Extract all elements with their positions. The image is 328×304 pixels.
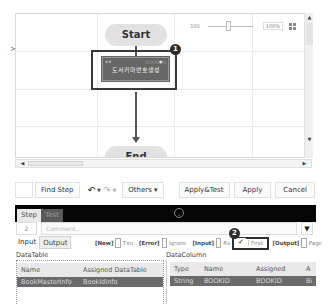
undo-dropdown-icon[interactable]: ▼: [97, 187, 101, 193]
rs-checkbox[interactable]: [216, 238, 221, 248]
tab-test[interactable]: Test: [41, 209, 63, 222]
cell-type: String: [170, 276, 200, 286]
apply-button[interactable]: Apply: [234, 182, 272, 198]
step-options: [New] Txn [Error] Ignore [Input] Rs ✓ Fi…: [95, 237, 328, 249]
txn-label: Txn: [123, 240, 133, 246]
column-header-name[interactable]: Name: [17, 263, 79, 277]
find-step-button[interactable]: Find Step: [35, 182, 80, 198]
tab-step[interactable]: Step: [17, 209, 41, 222]
tab-input[interactable]: Input: [15, 236, 39, 249]
datacolumn-header: Type Name Assigned A: [170, 262, 316, 276]
comment-dropdown-icon[interactable]: ▼: [301, 222, 313, 235]
txn-checkbox[interactable]: [115, 238, 120, 248]
scroll-left-icon[interactable]: ◀: [18, 160, 27, 167]
comment-input[interactable]: Comment...: [41, 222, 297, 235]
datatable-grid: Name Assigned DataTable BookMasterInfo B…: [16, 260, 164, 304]
redo-icon[interactable]: ↷: [103, 185, 111, 195]
column-header-name[interactable]: Name: [200, 262, 252, 276]
datacolumn-label: DataColumn: [166, 251, 206, 259]
connector-arrow: [135, 92, 137, 140]
cancel-button[interactable]: Cancel: [275, 182, 315, 198]
cell-assigned-datatable: BookIdInfo: [79, 277, 163, 287]
annotation-badge-2: 2: [229, 228, 240, 239]
datatable-label: DataTable: [16, 251, 48, 259]
column-header-assigned[interactable]: Assigned: [252, 262, 302, 276]
zoom-slider[interactable]: [208, 26, 253, 27]
column-header-assigned-datatable[interactable]: Assigned DataTable: [79, 263, 163, 277]
step-number: 2: [16, 222, 37, 235]
page-checkbox[interactable]: [301, 238, 306, 248]
collapse-panel-icon[interactable]: ⌄: [174, 208, 184, 218]
zoom-value: 100: [190, 23, 200, 29]
cell-assigned: BOOKID: [252, 276, 302, 286]
process-node-title: 도서키마번호생성: [103, 64, 168, 76]
arrow-head-icon: [132, 137, 140, 143]
output-tag: [Output]: [273, 240, 300, 246]
table-row[interactable]: String BOOKID BOOKID Bi: [170, 276, 316, 286]
redo-dropdown-icon[interactable]: ▼: [112, 187, 116, 193]
datatable-header: Name Assigned DataTable: [17, 263, 163, 277]
editor-toolbar: Find Step ↶ ▼ ↷ ▼ Others ▾ Apply&Test Ap…: [15, 181, 315, 199]
annotation-highlight-2: ✓ First: [232, 237, 269, 250]
zoom-control: 100 100%: [190, 20, 296, 32]
datacolumn-grid: Type Name Assigned A String BOOKID BOOKI…: [166, 260, 316, 304]
start-node[interactable]: Start: [105, 24, 167, 46]
grid-line: [16, 126, 311, 127]
tab-output[interactable]: Output: [39, 236, 71, 249]
new-tag: [New]: [95, 240, 113, 246]
first-checkbox[interactable]: ✓: [236, 238, 246, 248]
scroll-up-icon[interactable]: ▲: [305, 13, 314, 22]
process-node-icon: ##: [105, 59, 112, 64]
horizontal-scrollbar[interactable]: ◀ ▶: [15, 159, 312, 168]
undo-icon[interactable]: ↶: [88, 185, 96, 195]
grid-line: [252, 14, 253, 157]
cell-a: Bi: [302, 276, 316, 286]
zoom-percent[interactable]: 100%: [263, 22, 283, 30]
zoom-slider-thumb[interactable]: [226, 21, 231, 31]
process-node[interactable]: ## ○○○○●○ 도서키마번호생성: [102, 57, 169, 81]
column-header-a[interactable]: A: [302, 262, 316, 276]
horizontal-scroll-thumb[interactable]: [28, 161, 83, 166]
column-header-type[interactable]: Type: [170, 262, 200, 276]
flow-editor: Start End 100 100% > ## ○○○○●○ 도서키마번호생성 …: [0, 0, 328, 304]
rs-label: Rs: [223, 240, 230, 246]
table-row[interactable]: BookMasterInfo BookIdInfo: [17, 277, 163, 287]
first-label: First: [248, 240, 263, 246]
vertical-scrollbar[interactable]: ▲ ▼: [304, 13, 313, 158]
input-tag: [Input]: [192, 240, 213, 246]
find-step-input[interactable]: [15, 182, 33, 198]
error-tag: [Error]: [139, 240, 160, 246]
cell-name: BookMasterInfo: [17, 277, 79, 287]
others-menu-button[interactable]: Others ▾: [122, 182, 163, 198]
fit-screen-icon[interactable]: [289, 23, 296, 30]
cell-name: BOOKID: [200, 276, 252, 286]
ignore-label: Ignore: [169, 240, 187, 246]
scroll-right-icon[interactable]: ▶: [300, 160, 309, 167]
ignore-checkbox[interactable]: [162, 238, 167, 248]
side-panel-expander[interactable]: >: [8, 44, 18, 54]
page-label: Page: [309, 240, 322, 246]
vertical-scroll-thumb[interactable]: [306, 23, 313, 45]
panel-tab-bar: Step Test ⌄: [15, 205, 316, 222]
annotation-badge-1: 1: [170, 44, 181, 55]
io-tabs: Input Output: [15, 236, 71, 249]
end-node[interactable]: End: [105, 146, 167, 158]
scroll-down-icon[interactable]: ▼: [305, 135, 314, 144]
apply-test-button[interactable]: Apply&Test: [179, 182, 230, 198]
